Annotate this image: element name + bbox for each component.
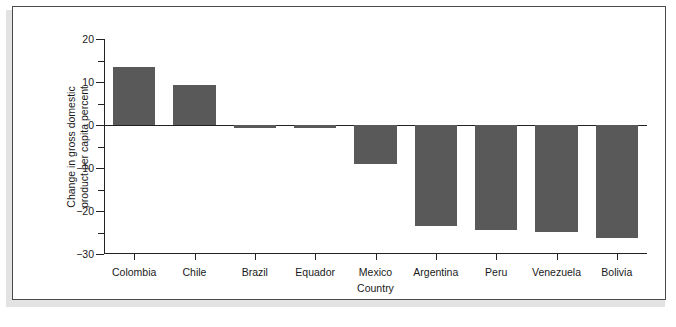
x-tick-label: Colombia [112,267,156,278]
y-axis-title-line-2: product per capita percent [78,86,91,208]
bar [475,125,517,230]
y-axis-title-line-1: Change in gross domestic [65,86,78,208]
x-tick-label: Chile [183,267,207,278]
plot-area: 20100−10−20−30ColombiaChileBrazilEquador… [104,39,647,254]
x-tick-label: Argentina [413,267,458,278]
y-tick-major [96,82,104,83]
y-tick-major [96,39,104,40]
x-tick [557,254,558,260]
x-tick [496,254,497,260]
bar [113,67,155,125]
x-tick [195,254,196,260]
y-tick-label: −10 [76,163,94,174]
y-tick-major [96,168,104,169]
y-tick-minor [98,233,104,234]
figure: Change in gross domestic product per cap… [0,0,676,327]
bar [173,85,215,125]
x-tick-label: Mexico [359,267,392,278]
bar [354,125,396,164]
bar [234,125,276,128]
x-tick-label: Bolivia [601,267,632,278]
y-axis-line [104,39,105,254]
x-tick-label: Brazil [242,267,268,278]
y-tick-minor [98,61,104,62]
y-tick-label: −30 [76,249,94,260]
y-tick-label: −20 [76,206,94,217]
x-tick-label: Venezuela [532,267,581,278]
y-tick-label: 20 [82,34,94,45]
x-tick [255,254,256,260]
x-tick-label: Equador [295,267,335,278]
x-tick [134,254,135,260]
x-tick [436,254,437,260]
x-axis-title: Country [104,282,647,294]
y-tick-major [96,254,104,255]
y-tick-label: 10 [82,77,94,88]
y-tick-label: 0 [88,120,94,131]
x-tick [315,254,316,260]
y-tick-minor [98,104,104,105]
y-tick-major [96,211,104,212]
bar-chart: Change in gross domestic product per cap… [13,7,667,301]
x-tick [617,254,618,260]
bar [596,125,638,238]
y-tick-minor [98,147,104,148]
bar [535,125,577,232]
bar [415,125,457,226]
x-tick-label: Peru [485,267,507,278]
bar [294,125,336,128]
y-tick-major [96,125,104,126]
figure-plate: Change in gross domestic product per cap… [12,6,666,300]
y-axis-title: Change in gross domestic product per cap… [65,39,91,254]
y-tick-minor [98,190,104,191]
x-tick [376,254,377,260]
